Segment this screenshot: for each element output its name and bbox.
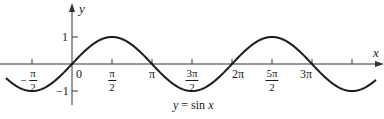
x-ticks: [32, 59, 352, 64]
y-tick-label-1: 1: [62, 31, 68, 43]
x-tick-label-3pi-over-2: 3π 2: [185, 68, 198, 93]
x-tick-label-neg-pi-over-2: − π 2: [29, 68, 37, 93]
x-axis-arrow-icon: [375, 61, 384, 67]
x-tick-label-3pi: 3π: [300, 67, 312, 82]
y-axis-label: y: [79, 2, 85, 15]
x-tick-label-5pi-over-2: 5π 2: [265, 68, 278, 93]
x-tick-label-0: 0: [76, 67, 82, 82]
x-tick-label-2pi: 2π: [232, 67, 244, 82]
x-tick-label-pi: π: [149, 67, 155, 82]
chart-caption: y = sin x: [173, 99, 213, 111]
x-axis-label: x: [373, 46, 379, 59]
x-tick-label-pi-over-2: π 2: [108, 68, 116, 93]
y-axis-arrow-icon: [69, 3, 75, 12]
y-tick-label-neg1: −1: [56, 85, 69, 97]
